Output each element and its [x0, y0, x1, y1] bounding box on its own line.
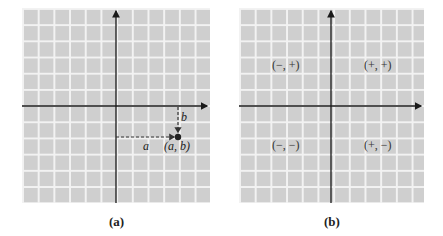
quadrant-3-label: (−, −): [272, 138, 300, 153]
caption-b: (b): [324, 214, 340, 230]
quadrant-4-label: (+, −): [364, 138, 392, 153]
quadrant-2-label: (−, +): [272, 58, 300, 73]
panel-b: (−, +) (+, +) (−, −) (+, −) (b): [0, 0, 443, 236]
axes-b: [0, 0, 443, 236]
quadrant-1-label: (+, +): [364, 58, 392, 73]
